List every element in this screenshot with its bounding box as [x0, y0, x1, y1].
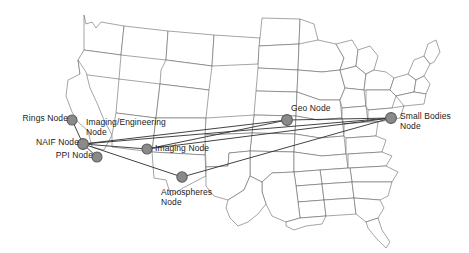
node-dot-ppi[interactable]	[92, 152, 102, 162]
node-label-geo: Geo Node	[291, 104, 337, 114]
node-label-naif: NAIF Node	[27, 138, 79, 148]
node-label-rings: Rings Node	[14, 114, 68, 124]
node-map-diagram: Rings NodeNAIF NodePPI NodeImaging/Engin…	[0, 0, 469, 253]
node-dot-smbodies[interactable]	[386, 113, 397, 124]
node-label-naif-line1: NAIF Node	[27, 138, 79, 148]
node-label-smbodies-line2: Node	[400, 122, 460, 132]
node-dot-imaging[interactable]	[142, 144, 152, 154]
node-label-imgeng-line2: Node	[86, 128, 174, 138]
node-label-imaging-line1: Imaging Node	[155, 144, 217, 154]
node-label-imaging: Imaging Node	[155, 144, 217, 154]
node-label-geo-line1: Geo Node	[291, 104, 337, 114]
node-dot-atmos[interactable]	[177, 172, 187, 182]
node-label-atmos: AtmospheresNode	[161, 188, 221, 207]
node-label-atmos-line2: Node	[161, 198, 221, 208]
node-dot-rings[interactable]	[67, 115, 77, 125]
node-dot-naif[interactable]	[78, 139, 89, 150]
node-label-ppi: PPI Node	[47, 151, 93, 161]
node-label-ppi-line1: PPI Node	[47, 151, 93, 161]
node-label-smbodies: Small BodiesNode	[400, 112, 460, 131]
node-label-rings-line1: Rings Node	[14, 114, 68, 124]
node-label-imgeng: Imaging/EngineeringNode	[86, 118, 174, 137]
node-dot-geo[interactable]	[282, 115, 293, 126]
us-map-svg	[0, 0, 469, 253]
